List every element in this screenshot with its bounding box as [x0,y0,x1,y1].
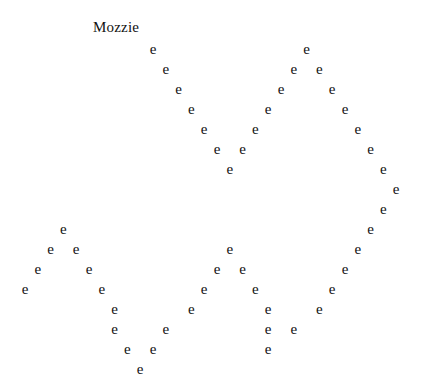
letter-e-glyph: e [32,261,44,277]
letter-e-glyph: e [173,81,185,97]
letter-e-glyph: e [313,301,325,317]
letter-e-glyph: e [160,321,172,337]
letter-e-glyph: e [288,61,300,77]
letter-e-glyph: e [224,241,236,257]
letter-e-glyph: e [237,261,249,277]
letter-e-glyph: e [275,81,287,97]
letter-e-glyph: e [224,161,236,177]
letter-e-glyph: e [326,281,338,297]
letter-e-glyph: e [147,41,159,57]
letter-e-glyph: e [339,101,351,117]
letter-e-glyph: e [211,261,223,277]
letter-e-glyph: e [147,341,159,357]
letter-e-glyph: e [109,301,121,317]
letter-e-glyph: e [70,241,82,257]
letter-e-glyph: e [365,221,377,237]
letter-e-glyph: e [301,41,313,57]
letter-e-glyph: e [352,241,364,257]
letter-e-glyph: e [249,121,261,137]
letter-e-glyph: e [185,101,197,117]
letter-e-glyph: e [365,141,377,157]
letter-e-glyph: e [185,301,197,317]
letter-e-glyph: e [377,161,389,177]
letter-e-glyph: e [288,321,300,337]
letter-e-glyph: e [262,301,274,317]
letter-e-glyph: e [352,121,364,137]
letter-e-glyph: e [237,141,249,157]
letter-e-glyph: e [339,261,351,277]
letter-e-glyph: e [83,261,95,277]
letter-e-glyph: e [377,201,389,217]
letter-e-glyph: e [198,121,210,137]
letter-e-glyph: e [211,141,223,157]
letter-e-glyph: e [326,81,338,97]
letter-e-glyph: e [249,281,261,297]
letter-e-glyph: e [198,281,210,297]
letter-e-glyph: e [313,61,325,77]
letter-e-glyph: e [262,341,274,357]
letter-e-glyph: e [160,61,172,77]
letter-e-glyph: e [262,321,274,337]
letter-e-glyph: e [134,361,146,377]
letter-e-glyph: e [96,281,108,297]
letter-e-glyph: e [262,101,274,117]
letter-e-glyph: e [45,241,57,257]
letter-e-glyph: e [57,221,69,237]
letter-e-glyph: e [121,341,133,357]
letter-e-glyph: e [390,181,402,197]
letter-e-glyph: e [109,321,121,337]
glyph-pattern: eeeeeeeeeeeeeeeeeeeeeeeeeeeeeeeeeeeeeeee… [0,0,426,390]
letter-e-glyph: e [19,281,31,297]
